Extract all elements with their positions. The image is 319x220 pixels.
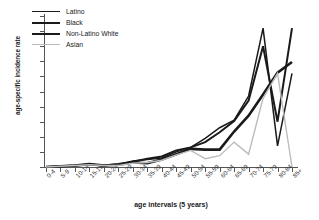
legend-swatch-icon [32, 11, 60, 12]
x-axis-title: age intervals (5 years) [44, 201, 298, 208]
legend-item: Asian [32, 39, 119, 50]
chart-figure: age-specific incidence rate age interval… [0, 0, 319, 220]
legend-label: Latino [66, 6, 85, 17]
legend-swatch-icon [32, 44, 60, 45]
legend-label: Asian [66, 39, 83, 50]
y-axis-title: age-specific incidence rate [14, 16, 21, 136]
legend-swatch-icon [32, 22, 60, 24]
legend-label: Non-Latino White [66, 28, 119, 39]
legend-swatch-icon [32, 33, 60, 35]
legend-item: Latino [32, 6, 119, 17]
legend-item: Non-Latino White [32, 28, 119, 39]
chart-legend: LatinoBlackNon-Latino WhiteAsian [32, 6, 119, 50]
legend-label: Black [66, 17, 83, 28]
legend-item: Black [32, 17, 119, 28]
